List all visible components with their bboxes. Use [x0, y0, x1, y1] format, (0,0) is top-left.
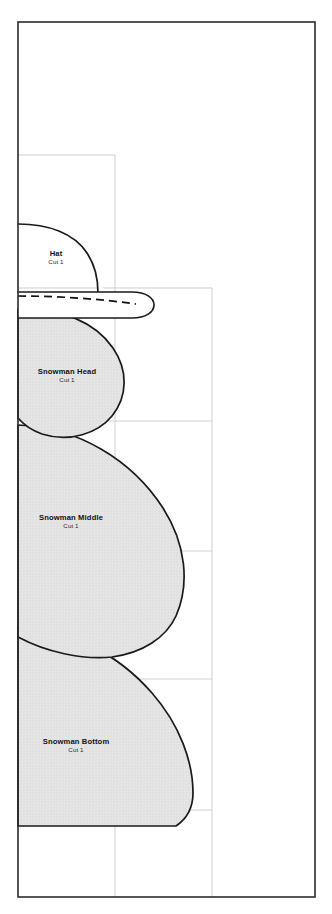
pattern-sheet: Hat Cut 1 Snowman Head Cut 1 Snowman Mid…: [0, 0, 332, 914]
pattern-drawing-canvas: [0, 0, 332, 914]
